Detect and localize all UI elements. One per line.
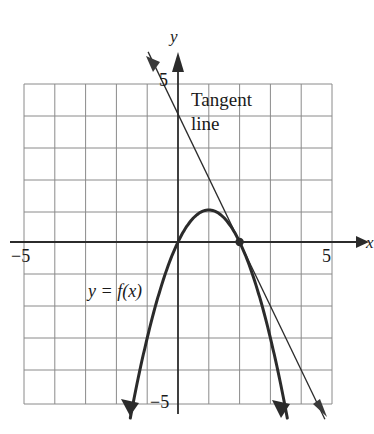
x-axis-label: x: [365, 233, 374, 252]
y-axis-label: y: [168, 27, 178, 46]
point-of-tangency-dot: [235, 238, 243, 246]
x-axis-tick-5: 5: [322, 246, 331, 266]
figure-container: y x 5 5 −5 −5 Tangent line y = f(x): [0, 0, 374, 434]
y-axis-tick-5: 5: [159, 70, 168, 90]
x-axis-tick-minus-5: −5: [11, 246, 30, 266]
tangent-line-annotation-line1: Tangent: [191, 89, 253, 110]
y-axis-tick-minus-5: −5: [150, 392, 169, 412]
tangent-line-annotation-line2: line: [191, 113, 220, 134]
figure-background: [0, 0, 374, 434]
function-label: y = f(x): [86, 281, 142, 302]
graph-figure: y x 5 5 −5 −5 Tangent line y = f(x): [0, 0, 374, 434]
